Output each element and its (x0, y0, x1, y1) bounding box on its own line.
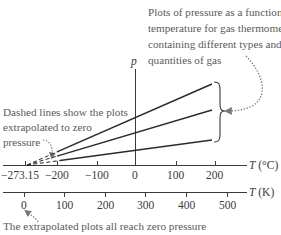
annotation-line: pressure (3, 136, 40, 148)
tick-label: −200 (45, 169, 69, 181)
tick-label: 500 (219, 199, 237, 211)
celsius-axis: −273.15 −200 −100 0 100 200 T (°C) (1, 159, 278, 181)
tick-label: 0 (132, 169, 138, 181)
p-axis-label: p (130, 55, 137, 68)
tick-label: −273.15 (1, 169, 39, 181)
dotted-arrow-icon (43, 140, 52, 156)
annotation-line: containing different types and (148, 38, 281, 50)
annotation-line: extrapolated to zero (3, 121, 92, 133)
annotation-zero-pressure: The extrapolated plots all reach zero pr… (3, 220, 206, 232)
tick-label: −100 (85, 169, 109, 181)
tick-label: 400 (178, 199, 196, 211)
annotation-dashed-lines: Dashed lines show the plots extrapolated… (3, 106, 128, 148)
tick-label: 200 (97, 199, 115, 211)
tick-label: 200 (206, 169, 224, 181)
annotation-line: Dashed lines show the plots (3, 106, 128, 118)
gas-thermometer-diagram: Plots of pressure as a function of tempe… (0, 0, 281, 235)
tick-label: 100 (56, 199, 74, 211)
kelvin-axis-label: T (K) (249, 186, 274, 199)
tick-label: 0 (21, 199, 27, 211)
dashed-extrapolation-line (27, 161, 60, 166)
annotation-line: temperature for gas thermometers (148, 22, 281, 34)
curly-brace-icon (214, 82, 225, 142)
dotted-arrow-icon (228, 56, 262, 111)
dashed-extrapolation-line (27, 156, 57, 165)
celsius-axis-label: T (°C) (249, 159, 278, 172)
kelvin-axis: 0 100 200 300 400 500 T (K) (3, 186, 274, 211)
tick-label: 300 (137, 199, 155, 211)
tick-label: 100 (167, 169, 185, 181)
annotation-pressure-plots: Plots of pressure as a function of tempe… (148, 6, 281, 66)
annotation-line: Plots of pressure as a function of (148, 6, 281, 18)
annotation-line: quantities of gas (148, 54, 221, 66)
